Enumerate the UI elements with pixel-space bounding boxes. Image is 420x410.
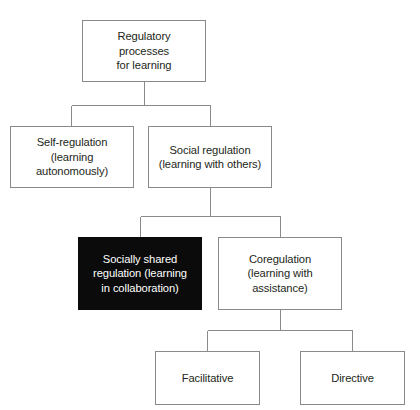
node-social-regulation: Social regulation (learning with others): [148, 126, 272, 188]
node-self-regulation: Self-regulation (learning autonomously): [10, 126, 134, 188]
node-label: Facilitative: [161, 371, 254, 385]
node-label: Directive: [306, 371, 399, 385]
node-regulatory-processes-for-learning: Regulatory processes for learning: [82, 20, 206, 82]
node-socially-shared-regulation: Socially shared regulation (learning in …: [78, 237, 202, 310]
connector-lines: [0, 0, 420, 410]
hierarchy-diagram: Regulatory processes for learning Self-r…: [0, 0, 420, 410]
node-label: Social regulation (learning with others): [154, 143, 266, 172]
node-directive: Directive: [300, 351, 405, 405]
node-facilitative: Facilitative: [155, 351, 260, 405]
node-label: Self-regulation (learning autonomously): [16, 135, 128, 178]
node-coregulation: Coregulation (learning with assistance): [218, 237, 342, 310]
node-label: Socially shared regulation (learning in …: [84, 252, 196, 295]
node-label: Coregulation (learning with assistance): [224, 252, 336, 295]
node-label: Regulatory processes for learning: [88, 29, 200, 72]
